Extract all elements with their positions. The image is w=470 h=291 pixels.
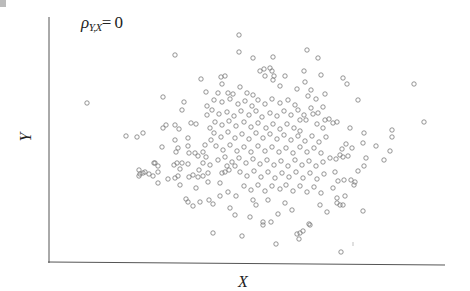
data-point [234, 124, 238, 128]
data-point [234, 194, 238, 198]
data-point [282, 133, 286, 137]
data-point [280, 171, 284, 175]
data-point [282, 109, 286, 113]
data-point [322, 172, 326, 176]
data-point [240, 234, 244, 238]
data-point [201, 161, 205, 165]
data-point [296, 108, 300, 112]
data-point [189, 121, 193, 125]
data-point [364, 156, 368, 160]
data-point [220, 82, 224, 86]
data-point [344, 142, 348, 146]
data-point [217, 112, 221, 116]
data-point [345, 82, 349, 86]
data-point [390, 128, 394, 132]
data-point [362, 131, 366, 135]
data-point [228, 206, 232, 210]
data-point [256, 144, 260, 148]
data-point [244, 161, 248, 165]
data-point [270, 184, 274, 188]
data-point [204, 155, 208, 159]
data-point [156, 164, 160, 168]
data-point [178, 183, 182, 187]
data-point [197, 168, 201, 172]
data-point [237, 156, 241, 160]
data-point [201, 174, 205, 178]
data-point [289, 113, 293, 117]
data-point [339, 250, 343, 254]
data-point [245, 91, 249, 95]
data-point [306, 94, 310, 98]
data-point [263, 189, 267, 193]
data-point [278, 84, 282, 88]
data-point [235, 149, 239, 153]
data-point [302, 69, 306, 73]
data-point [219, 135, 223, 139]
data-point [256, 98, 260, 102]
data-point [305, 190, 309, 194]
data-point [232, 114, 236, 118]
data-point [247, 113, 251, 117]
rho-subscript: Y,X [89, 21, 102, 33]
data-point [307, 159, 311, 163]
data-point [315, 122, 319, 126]
data-point [268, 132, 272, 136]
data-point [352, 183, 356, 187]
data-point [276, 212, 280, 216]
data-point [223, 155, 227, 159]
data-point [226, 190, 230, 194]
data-point [186, 144, 190, 148]
data-point [297, 237, 301, 241]
data-point [166, 177, 170, 181]
data-point [335, 196, 339, 200]
data-point [274, 242, 278, 246]
data-point [374, 144, 378, 148]
data-point [304, 118, 308, 122]
data-point [422, 120, 426, 124]
data-point [316, 56, 320, 60]
data-point [252, 169, 256, 173]
data-point [180, 108, 184, 112]
y-axis-label: Y [17, 133, 35, 142]
data-point [191, 173, 195, 177]
data-point [309, 88, 313, 92]
data-point [239, 109, 243, 113]
data-point [242, 145, 246, 149]
data-point [319, 191, 323, 195]
data-point [254, 131, 258, 135]
data-point [353, 180, 357, 184]
data-point [295, 87, 299, 91]
data-point [220, 123, 224, 127]
data-point [271, 78, 275, 82]
data-point [321, 160, 325, 164]
data-point [271, 122, 275, 126]
data-point [291, 189, 295, 193]
data-point [283, 201, 287, 205]
data-point [309, 106, 313, 110]
data-point [325, 210, 329, 214]
data-point [302, 113, 306, 117]
data-point [242, 184, 246, 188]
data-point [212, 98, 216, 102]
data-point [319, 151, 323, 155]
data-point [303, 139, 307, 143]
data-point [236, 102, 240, 106]
data-point [412, 82, 416, 86]
data-point [269, 220, 273, 224]
data-point [362, 164, 366, 168]
data-point [207, 198, 211, 202]
data-point [135, 135, 139, 139]
data-point [278, 127, 282, 131]
data-point [293, 158, 297, 162]
data-point [196, 154, 200, 158]
data-point [262, 67, 266, 71]
data-point [160, 145, 164, 149]
data-point [271, 55, 275, 59]
data-point [258, 162, 262, 166]
data-point [342, 178, 346, 182]
data-point [251, 157, 255, 161]
data-point [291, 151, 295, 155]
scatter-plot [0, 0, 470, 291]
data-point [256, 121, 260, 125]
data-point [292, 126, 296, 130]
